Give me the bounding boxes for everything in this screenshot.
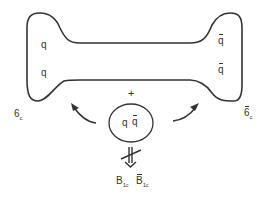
left-quark-label-2: q <box>41 68 47 78</box>
right-antiquark-label-2: q <box>218 65 224 75</box>
right-color-rep: 6c <box>244 108 253 119</box>
right-arrow <box>173 107 196 121</box>
pair-qbar-label: q <box>132 117 138 127</box>
baryon-label: B1c <box>116 176 129 187</box>
right-arrowhead-icon <box>190 103 199 111</box>
left-arrowhead-icon <box>71 103 79 111</box>
left-color-rep: 6c <box>14 109 23 120</box>
string-tube <box>27 13 242 101</box>
diagram-canvas <box>0 0 265 205</box>
forbidden-arrow-icon <box>121 147 141 167</box>
antibaryon-label: B1c <box>136 176 149 187</box>
pair-q-label: q <box>122 118 128 128</box>
right-antiquark-label-1: q <box>218 36 224 46</box>
left-quark-label-1: q <box>41 40 47 50</box>
plus-sign: + <box>128 88 134 98</box>
pair-circle <box>109 104 153 142</box>
